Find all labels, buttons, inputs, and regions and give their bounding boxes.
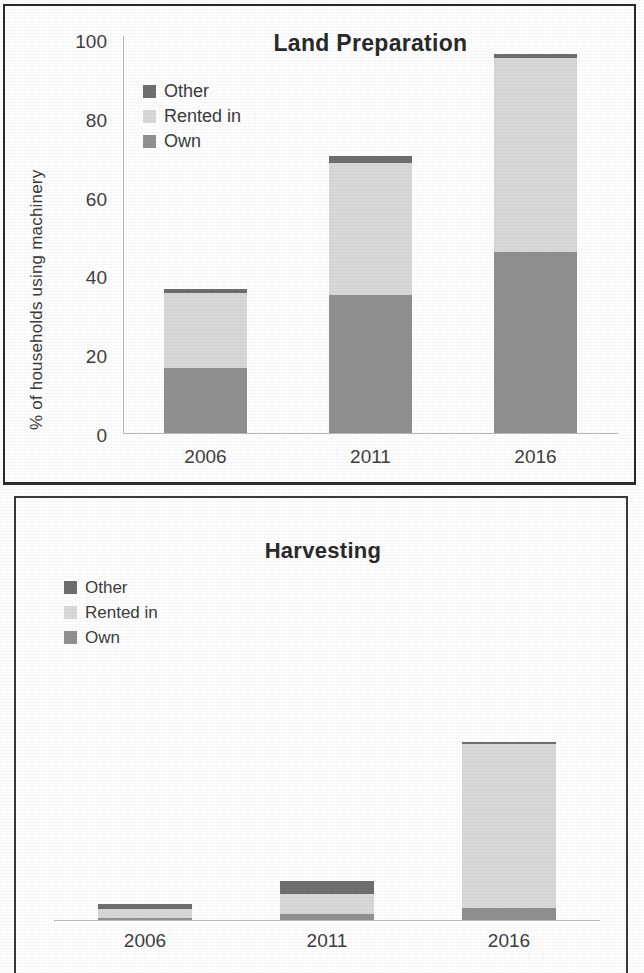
bar-segment-other[interactable] bbox=[280, 881, 375, 893]
bar-2016[interactable] bbox=[494, 36, 577, 433]
y-axis-tick: 0 bbox=[96, 425, 107, 447]
harvesting-chart-panel: Harvesting OtherRented inOwn 20062011201… bbox=[14, 496, 628, 973]
x-axis-tick: 2016 bbox=[418, 930, 600, 952]
bar-segment-rented-in[interactable] bbox=[462, 744, 557, 908]
bar-2011[interactable] bbox=[280, 538, 375, 920]
x-axis-tick: 2006 bbox=[54, 930, 236, 952]
y-axis-tick: 80 bbox=[86, 110, 107, 132]
x-axis-tick: 2011 bbox=[236, 930, 418, 952]
land-preparation-chart-panel: % of households using machinery 10080604… bbox=[3, 4, 636, 485]
x-axis-line bbox=[54, 920, 600, 921]
bar-segment-own[interactable] bbox=[280, 914, 375, 920]
x-axis-tick: 2011 bbox=[288, 446, 453, 468]
y-axis-tick: 40 bbox=[86, 267, 107, 289]
x-axis-tick: 2006 bbox=[123, 446, 288, 468]
bar-segment-own[interactable] bbox=[494, 252, 577, 433]
bar-segment-own[interactable] bbox=[98, 918, 193, 920]
bar-segment-other[interactable] bbox=[329, 156, 412, 163]
bar-segment-other[interactable] bbox=[462, 742, 557, 744]
y-axis-tick: 100 bbox=[75, 31, 107, 53]
bar-2011[interactable] bbox=[329, 36, 412, 433]
bar-segment-rented-in[interactable] bbox=[164, 293, 247, 368]
bar-segment-rented-in[interactable] bbox=[98, 909, 193, 919]
bar-segment-other[interactable] bbox=[98, 904, 193, 909]
bar-2016[interactable] bbox=[462, 538, 557, 920]
bar-segment-other[interactable] bbox=[164, 289, 247, 293]
y-axis-tick: 60 bbox=[86, 189, 107, 211]
bar-2006[interactable] bbox=[164, 36, 247, 433]
bar-2006[interactable] bbox=[98, 538, 193, 920]
x-axis-line bbox=[123, 433, 618, 434]
chart-page: % of households using machinery 10080604… bbox=[0, 0, 644, 973]
plot-area bbox=[123, 36, 618, 433]
y-axis-tick: 20 bbox=[86, 346, 107, 368]
y-axis-label: % of households using machinery bbox=[27, 170, 47, 430]
bar-segment-rented-in[interactable] bbox=[494, 58, 577, 251]
bar-segment-own[interactable] bbox=[164, 368, 247, 434]
bar-segment-rented-in[interactable] bbox=[329, 163, 412, 295]
bar-segment-own[interactable] bbox=[329, 295, 412, 433]
plot-area bbox=[54, 538, 600, 920]
bar-segment-rented-in[interactable] bbox=[280, 894, 375, 915]
bar-segment-other[interactable] bbox=[494, 54, 577, 58]
bar-segment-own[interactable] bbox=[462, 908, 557, 920]
x-axis-tick: 2016 bbox=[453, 446, 618, 468]
